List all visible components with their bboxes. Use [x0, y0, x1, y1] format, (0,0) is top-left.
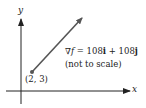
y-axis-label: y — [18, 5, 23, 15]
x-axis-label: x — [132, 84, 137, 94]
gradient-equation: ∇f = 108i + 108j — [65, 46, 138, 56]
scale-note: (not to scale) — [65, 59, 122, 69]
point-label: (2, 3) — [25, 74, 48, 84]
unit-j: j — [135, 46, 138, 56]
eq-part-1: = 108 — [74, 46, 103, 56]
eq-part-2: + 108 — [106, 46, 135, 56]
